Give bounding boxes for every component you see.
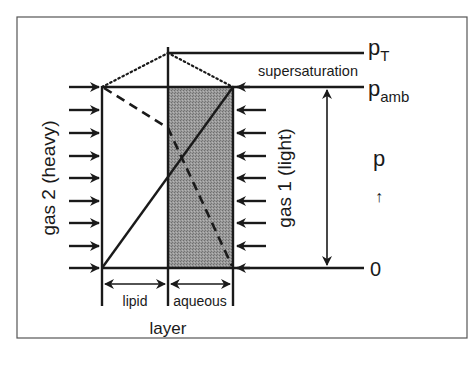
pressure-axis-arrow-glyph: ↑ — [375, 188, 383, 205]
gas2-heavy-label: gas 2 (heavy) — [38, 120, 59, 235]
gas-diffusion-diagram: pT supersaturation pamb p ↑ 0 gas 2 (hea… — [0, 0, 475, 367]
lipid-label: lipid — [123, 293, 148, 309]
layer-caption: layer — [150, 319, 187, 338]
gas1-light-label: gas 1 (light) — [274, 128, 295, 227]
zero-level-label: 0 — [370, 258, 381, 280]
p-total-label: pT — [368, 35, 389, 64]
p-ambient-label: pamb — [368, 76, 409, 105]
supersaturation-label: supersaturation — [258, 63, 358, 79]
aqueous-layer-shade — [168, 87, 233, 268]
gas2-inflow-arrows — [69, 87, 99, 268]
aqueous-label: aqueous — [173, 293, 227, 309]
pressure-axis-label: p — [373, 146, 385, 171]
gas1-inflow-arrows — [237, 87, 266, 268]
